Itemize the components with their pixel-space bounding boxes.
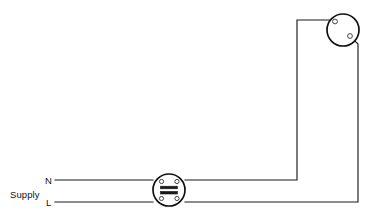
wiring-diagram: Supply N L — [0, 0, 372, 224]
supply-label: Supply — [10, 189, 40, 200]
lamp-holder-terminal-live — [348, 34, 353, 39]
lamp-holder-terminal-neutral — [333, 19, 338, 24]
lamp-holder — [327, 14, 359, 46]
neutral-label: N — [45, 175, 52, 186]
live-label: L — [46, 197, 51, 208]
junction-box — [153, 174, 185, 206]
junction-box-connector-bar-upper — [161, 186, 178, 189]
lamp-holder-body — [327, 14, 359, 46]
live-return-wire — [185, 38, 358, 203]
junction-box-terminal-bottom-left — [159, 196, 163, 200]
junction-box-terminal-top-left — [159, 179, 163, 183]
wiring-diagram-canvas: Supply N L — [0, 0, 372, 224]
junction-box-terminal-bottom-right — [175, 196, 179, 200]
neutral-to-lamp-wire — [185, 20, 332, 180]
junction-box-body — [153, 174, 185, 206]
junction-box-terminal-top-right — [175, 179, 179, 183]
junction-box-connector-bar-lower — [161, 191, 178, 194]
